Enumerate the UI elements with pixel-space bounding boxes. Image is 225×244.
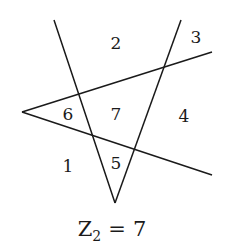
region-label-3: 3 xyxy=(191,27,202,47)
region-label-4: 4 xyxy=(179,106,190,126)
line-arrangement-diagram: 1 2 3 4 5 6 7 Z2=7 xyxy=(0,0,225,244)
caption: Z2=7 xyxy=(78,217,147,244)
region-label-7: 7 xyxy=(111,104,122,124)
region-labels-group: 1 2 3 4 5 6 7 xyxy=(63,27,202,176)
region-label-6: 6 xyxy=(63,104,74,124)
region-label-1: 1 xyxy=(63,156,74,176)
caption-variable: Z xyxy=(78,217,93,241)
caption-operator: = xyxy=(108,217,126,241)
caption-subscript: 2 xyxy=(92,228,101,244)
caption-value: 7 xyxy=(133,217,146,241)
region-label-2: 2 xyxy=(111,33,122,53)
region-label-5: 5 xyxy=(111,153,122,173)
upper-wedge-line xyxy=(22,52,212,112)
right-v-line xyxy=(115,20,181,203)
